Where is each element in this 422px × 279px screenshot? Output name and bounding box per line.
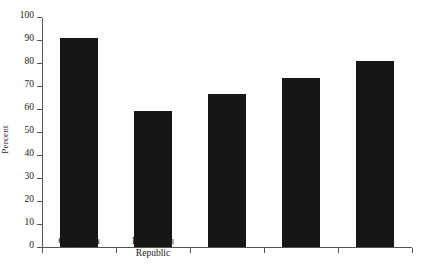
y-tick: 10 bbox=[37, 224, 42, 225]
y-tick-label: 40 bbox=[25, 148, 35, 158]
bar-chart: Percent 0102030405060708090100 Costa Ric… bbox=[0, 0, 422, 279]
x-category-label: Costa Rica bbox=[42, 236, 116, 248]
y-tick-label: 20 bbox=[25, 194, 35, 204]
x-category-label: Mexico bbox=[264, 236, 338, 248]
x-tick bbox=[338, 248, 339, 253]
y-tick: 40 bbox=[37, 155, 42, 156]
x-tick bbox=[190, 248, 191, 253]
bar bbox=[208, 94, 246, 247]
y-tick-label: 90 bbox=[25, 33, 35, 43]
x-category-label: Haiti bbox=[190, 236, 264, 248]
y-tick: 90 bbox=[37, 40, 42, 41]
y-tick-label: 80 bbox=[25, 56, 35, 66]
y-axis-title: Percent bbox=[0, 0, 14, 279]
y-tick: 80 bbox=[37, 63, 42, 64]
y-tick: 60 bbox=[37, 109, 42, 110]
x-tick bbox=[42, 248, 43, 253]
y-tick-label: 60 bbox=[25, 102, 35, 112]
plot-area: 0102030405060708090100 bbox=[42, 18, 412, 248]
y-tick: 30 bbox=[37, 178, 42, 179]
bar bbox=[134, 111, 172, 247]
y-tick: 50 bbox=[37, 132, 42, 133]
y-tick: 100 bbox=[37, 17, 42, 18]
y-tick-label: 50 bbox=[25, 125, 35, 135]
x-category-label: Nicaragua bbox=[338, 236, 412, 248]
bar bbox=[60, 38, 98, 247]
y-tick: 70 bbox=[37, 86, 42, 87]
y-tick-label: 10 bbox=[25, 217, 35, 227]
x-tick bbox=[264, 248, 265, 253]
y-tick-label: 30 bbox=[25, 171, 35, 181]
y-tick-label: 70 bbox=[25, 79, 35, 89]
x-tick bbox=[412, 248, 413, 253]
y-tick: 20 bbox=[37, 201, 42, 202]
y-tick-label: 100 bbox=[20, 10, 34, 20]
y-tick-label: 0 bbox=[29, 240, 34, 250]
x-category-label: Dominican Republic bbox=[116, 236, 190, 259]
bar bbox=[356, 61, 394, 247]
bar bbox=[282, 78, 320, 247]
y-axis-line bbox=[42, 18, 43, 248]
